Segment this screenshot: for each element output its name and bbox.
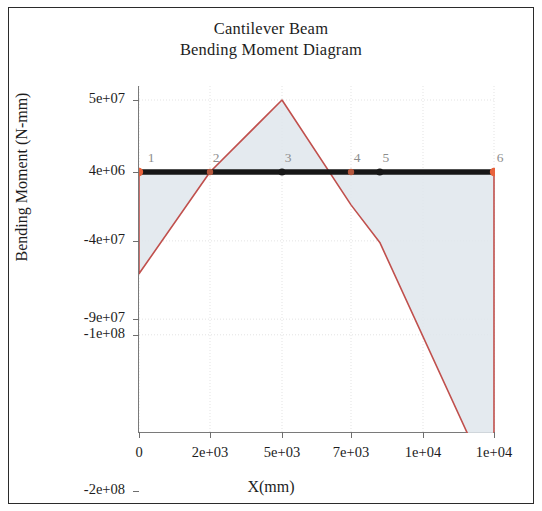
node-label-5: 5 <box>374 150 398 166</box>
plot-svg <box>139 86 495 433</box>
y-tick-mark <box>133 319 139 320</box>
y-tick-mark <box>133 172 139 173</box>
x-tick-mark <box>282 432 283 438</box>
x-axis-label: X(mm) <box>0 478 542 496</box>
x-tick-mark <box>351 432 352 438</box>
figure-canvas: Cantilever Beam Bending Moment Diagram 5… <box>0 0 542 511</box>
node-marker-5 <box>376 168 383 175</box>
y-tick-mark <box>133 335 139 336</box>
x-tick-mark <box>494 432 495 438</box>
y-tick-label: 5e+07 <box>47 90 125 107</box>
chart-subtitle: Bending Moment Diagram <box>0 39 542 60</box>
y-tick-label: -4e+07 <box>47 231 125 248</box>
x-tick-label: 1e+04 <box>383 444 463 461</box>
y-tick-label: 4e+06 <box>47 162 125 179</box>
node-label-6: 6 <box>488 150 512 166</box>
y-tick-label: -1e+08 <box>47 325 125 342</box>
node-label-3: 3 <box>276 150 300 166</box>
bending-moment-fill <box>139 100 494 433</box>
y-tick-mark <box>133 241 139 242</box>
chart-title: Cantilever Beam <box>0 18 542 39</box>
y-axis-label: Bending Moment (N-mm) <box>13 47 31 307</box>
x-tick-label: 1e+04 <box>454 444 534 461</box>
node-marker-3 <box>278 168 285 175</box>
node-marker-4 <box>348 169 354 175</box>
x-tick-label: 0 <box>99 444 179 461</box>
y-tick-label: -9e+07 <box>47 309 125 326</box>
y-tick-mark <box>133 100 139 101</box>
x-tick-label: 5e+03 <box>242 444 322 461</box>
node-label-1: 1 <box>139 150 163 166</box>
x-tick-label: 7e+03 <box>311 444 391 461</box>
chart-title-block: Cantilever Beam Bending Moment Diagram <box>0 18 542 60</box>
node-label-4: 4 <box>345 150 369 166</box>
x-tick-label: 2e+03 <box>170 444 250 461</box>
x-tick-mark <box>210 432 211 438</box>
node-marker-2 <box>207 169 213 175</box>
x-tick-mark <box>139 432 140 438</box>
plot-area <box>139 86 494 432</box>
x-tick-mark <box>423 432 424 438</box>
node-label-2: 2 <box>204 150 228 166</box>
